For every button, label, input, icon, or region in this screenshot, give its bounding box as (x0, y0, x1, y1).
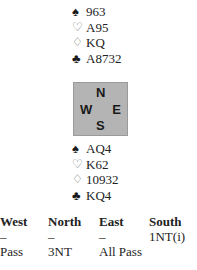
south-spades-cards: AQ4 (86, 141, 111, 157)
north-diamonds: ♢ KQ (72, 35, 121, 51)
diamond-icon: ♢ (72, 172, 86, 188)
south-clubs-cards: KQ4 (86, 188, 111, 204)
heart-icon: ♡ (72, 20, 86, 36)
bid-cell: – (48, 229, 99, 244)
bid-cell: – (99, 229, 149, 244)
bid-cell: 3NT (48, 244, 99, 259)
auction-table: West North East South – – – 1NT(i) Pass … (0, 214, 197, 259)
south-hand: ♠ AQ4 ♡ K62 ♢ 10932 ♣ KQ4 (72, 141, 119, 203)
bid-cell: All Pass (99, 244, 149, 259)
north-spades-cards: 963 (86, 4, 106, 20)
club-icon: ♣ (72, 51, 86, 67)
south-spades: ♠ AQ4 (72, 141, 119, 157)
north-diamonds-cards: KQ (86, 35, 105, 51)
north-hand: ♠ 963 ♡ A95 ♢ KQ ♣ A8732 (72, 4, 121, 66)
south-diamonds-cards: 10932 (86, 172, 119, 188)
north-clubs-cards: A8732 (86, 51, 121, 67)
spade-icon: ♠ (72, 4, 86, 20)
south-hearts-cards: K62 (86, 157, 108, 173)
auction-row: Pass 3NT All Pass (0, 244, 197, 259)
north-hearts-cards: A95 (86, 20, 108, 36)
compass-north: N (96, 85, 105, 100)
south-diamonds: ♢ 10932 (72, 172, 119, 188)
compass-south: S (96, 118, 105, 133)
bid-cell: – (0, 229, 48, 244)
compass-east: E (112, 102, 121, 117)
club-icon: ♣ (72, 188, 86, 204)
compass-box: N W E S (73, 82, 128, 136)
bid-cell (149, 244, 197, 259)
north-spades: ♠ 963 (72, 4, 121, 20)
bid-cell: 1NT(i) (149, 229, 197, 244)
bid-cell: Pass (0, 244, 48, 259)
auction-row: – – – 1NT(i) (0, 229, 197, 244)
compass-west: W (80, 102, 92, 117)
auction-header: West North East South (0, 214, 197, 229)
south-hearts: ♡ K62 (72, 157, 119, 173)
south-clubs: ♣ KQ4 (72, 188, 119, 204)
spade-icon: ♠ (72, 141, 86, 157)
header-west: West (0, 214, 48, 229)
diamond-icon: ♢ (72, 35, 86, 51)
north-hearts: ♡ A95 (72, 20, 121, 36)
header-east: East (99, 214, 149, 229)
heart-icon: ♡ (72, 157, 86, 173)
header-north: North (48, 214, 99, 229)
header-south: South (149, 214, 197, 229)
north-clubs: ♣ A8732 (72, 51, 121, 67)
